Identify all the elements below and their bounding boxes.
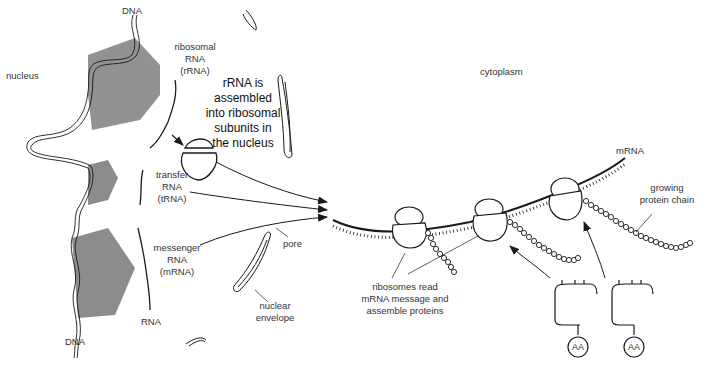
trna-arrow-2 <box>584 222 605 278</box>
pore-pointer <box>276 228 288 237</box>
mrna-label-line: messenger <box>152 242 202 254</box>
cytoplasm-label: cytoplasm <box>480 66 523 78</box>
mrna-cytoplasm-label: mRNA <box>616 145 644 157</box>
note-line: assembled <box>198 91 288 106</box>
amino-acid-1-label: AA <box>568 341 588 353</box>
rrna-label-line: ribosomal <box>172 41 218 53</box>
nuclear-envelope-label: nuclear envelope <box>254 300 296 324</box>
ribosomes-read-label: ribosomes read mRNA message and assemble… <box>356 281 454 317</box>
rna-label: RNA <box>141 316 161 328</box>
protein-chain-pointer <box>636 214 652 232</box>
ribosomes-label-line: ribosomes read <box>356 281 454 293</box>
rrna-assembly-note: rRNA is assembled into ribosomal subunit… <box>198 76 288 151</box>
ribosomes-label-line: mRNA message and <box>356 293 454 305</box>
trna-label-line: RNA <box>152 181 192 193</box>
mrna-nucleus-label: messenger RNA (mRNA) <box>152 242 202 278</box>
note-line: subunits in <box>198 121 288 136</box>
mrna-label-line: (mRNA) <box>152 266 202 278</box>
dna-top-label: DNA <box>122 5 142 17</box>
note-line: into ribosomal <box>198 106 288 121</box>
rrna-label-line: RNA <box>172 53 218 65</box>
rrna-label: ribosomal RNA (rRNA) <box>172 41 218 77</box>
mrna-strand <box>138 228 150 310</box>
trna-strand <box>140 170 143 205</box>
ribosome-pointer-1 <box>392 253 405 278</box>
cytoplasm-ribosomes <box>392 178 581 248</box>
trna-label-line: transfer <box>152 169 192 181</box>
amino-acid-2-label: AA <box>624 341 644 353</box>
note-line: rRNA is <box>198 76 288 91</box>
dna-bottom-label: DNA <box>65 336 85 348</box>
protein-chain-label-line: growing <box>636 182 698 194</box>
mrna-label-line: RNA <box>152 254 202 266</box>
diagram-canvas <box>0 0 707 368</box>
mrna-transcription-shape <box>72 228 135 318</box>
trna-label: transfer RNA (tRNA) <box>152 169 192 205</box>
envelope-label-line: nuclear <box>254 300 296 312</box>
trna-label-line: (tRNA) <box>152 193 192 205</box>
pore-label: pore <box>283 238 302 250</box>
ribosomes-label-line: assemble proteins <box>356 305 454 317</box>
rrna-transcription-shape <box>88 38 160 130</box>
envelope-label-line: envelope <box>254 312 296 324</box>
protein-chain-label-line: protein chain <box>636 194 698 206</box>
nucleus-label: nucleus <box>6 70 39 82</box>
rrna-pointer-arrow <box>172 135 183 145</box>
note-line: the nucleus <box>198 136 288 151</box>
growing-protein-chain-label: growing protein chain <box>636 182 698 206</box>
export-arrows <box>190 162 327 245</box>
